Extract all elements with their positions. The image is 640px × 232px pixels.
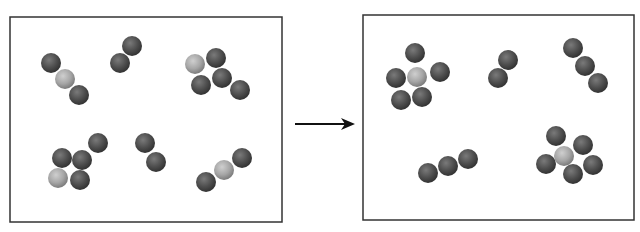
dark-atom bbox=[405, 43, 425, 63]
dark-atom bbox=[230, 80, 250, 100]
dark-atom bbox=[146, 152, 166, 172]
dark-atom bbox=[488, 68, 508, 88]
dark-atom bbox=[212, 68, 232, 88]
dark-atom bbox=[196, 172, 216, 192]
products-panel bbox=[363, 15, 634, 220]
dark-atom bbox=[391, 90, 411, 110]
dark-atom bbox=[122, 36, 142, 56]
dark-atom bbox=[418, 163, 438, 183]
dark-atom bbox=[575, 56, 595, 76]
dark-atom bbox=[52, 148, 72, 168]
dark-atom bbox=[412, 87, 432, 107]
dark-atom bbox=[536, 154, 556, 174]
dark-atom bbox=[135, 133, 155, 153]
dark-atom bbox=[563, 164, 583, 184]
dark-atom bbox=[498, 50, 518, 70]
products-box bbox=[363, 15, 634, 220]
reaction-arrow bbox=[295, 118, 355, 130]
light-atom bbox=[55, 69, 75, 89]
dark-atom bbox=[438, 156, 458, 176]
light-atom bbox=[48, 168, 68, 188]
reaction-diagram bbox=[0, 0, 640, 232]
dark-atom bbox=[386, 68, 406, 88]
dark-atom bbox=[583, 155, 603, 175]
dark-atom bbox=[588, 73, 608, 93]
dark-atom bbox=[191, 75, 211, 95]
dark-atom bbox=[563, 38, 583, 58]
reactants-panel bbox=[10, 17, 282, 222]
dark-atom bbox=[69, 85, 89, 105]
reactants-box bbox=[10, 17, 282, 222]
dark-atom bbox=[232, 148, 252, 168]
light-atom bbox=[214, 160, 234, 180]
light-atom bbox=[185, 54, 205, 74]
dark-atom bbox=[110, 53, 130, 73]
dark-atom bbox=[430, 62, 450, 82]
dark-atom bbox=[70, 170, 90, 190]
dark-atom bbox=[573, 135, 593, 155]
dark-atom bbox=[546, 126, 566, 146]
dark-atom bbox=[206, 48, 226, 68]
dark-atom bbox=[41, 53, 61, 73]
light-atom bbox=[554, 146, 574, 166]
light-atom bbox=[407, 67, 427, 87]
dark-atom bbox=[72, 150, 92, 170]
dark-atom bbox=[88, 133, 108, 153]
dark-atom bbox=[458, 149, 478, 169]
